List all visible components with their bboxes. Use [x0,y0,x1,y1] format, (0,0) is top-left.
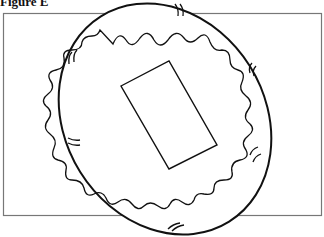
figure-diagram [0,0,324,237]
